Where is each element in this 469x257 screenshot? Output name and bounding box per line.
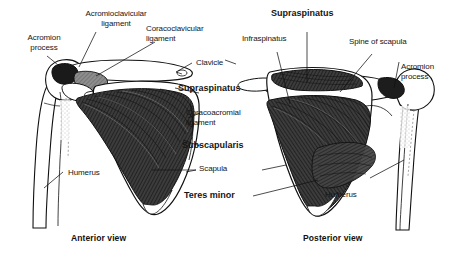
label-acromion-process-posterior: Acromion process: [401, 62, 463, 81]
label-coracoacromial-ligament: Coracoacromial ligament: [186, 108, 278, 127]
label-humerus-posterior: Humerus: [325, 190, 357, 200]
label-teres-minor: Teres minor: [184, 190, 235, 201]
label-spine-of-scapula: Spine of scapula: [349, 37, 407, 47]
caption-posterior-view: Posterior view: [303, 233, 363, 243]
label-acromion-process-anterior: Acromion process: [8, 33, 80, 52]
label-supraspinatus-anterior: Supraspinatus: [178, 83, 241, 94]
label-coracoclavicular-ligament: Coracoclavicular ligament: [146, 24, 246, 43]
label-clavicle: Clavicle: [196, 58, 223, 68]
label-scapula: Scapula: [199, 164, 227, 174]
label-humerus-anterior: Humerus: [68, 168, 100, 178]
label-infraspinatus: Infraspinatus: [242, 34, 287, 44]
posterior-view-art: [238, 68, 434, 231]
label-supraspinatus-posterior: Supraspinatus: [271, 8, 334, 19]
label-subscapularis: Subscapularis: [182, 140, 244, 151]
anterior-view-art: [33, 60, 199, 228]
caption-anterior-view: Anterior view: [71, 233, 126, 243]
posterior-teres-minor-muscle: [312, 142, 375, 188]
anatomy-figure: Acromion process Acromioclavicular ligam…: [0, 0, 469, 257]
